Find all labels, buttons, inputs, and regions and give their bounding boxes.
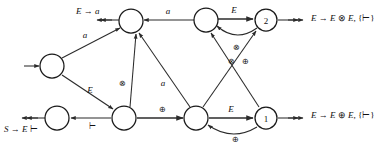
edge-q2-to-topmid-curve <box>217 26 257 35</box>
state-node-top-left[interactable] <box>119 9 143 33</box>
edge-label-a-botright-topleft: a <box>161 78 166 88</box>
annotation-reduce-E-otimes: E → E ⊗ E, {⊢} <box>310 13 375 23</box>
automaton-canvas: 2 1 a a E ⊗ ⊗ a ⊗ ⊕ E ⊢ ⊕ E ⊕ E → a E → … <box>0 0 392 145</box>
edge-botright-to-topleft <box>139 33 190 107</box>
edge-botmid-to-topleft <box>130 34 136 107</box>
edge-label-a-topmid-topleft: a <box>166 6 171 16</box>
edge-label-E-start-botmid: E <box>86 85 93 95</box>
edge-q1-to-botright-curve <box>208 125 257 134</box>
automaton-diagram: 2 1 a a E ⊗ ⊗ a ⊗ ⊕ E ⊢ ⊕ E ⊕ E → a E → … <box>0 0 392 145</box>
annotation-reduce-E-oplus: E → E ⊕ E, {⊢} <box>310 110 375 120</box>
state-node-2-label: 2 <box>264 16 269 26</box>
edge-label-oplus-q1-botright: ⊕ <box>232 135 239 144</box>
state-node-start[interactable] <box>40 54 64 78</box>
state-node-bottom-left[interactable] <box>45 106 69 130</box>
annotation-reduce-E-to-a: E → a <box>75 6 100 16</box>
edge-label-turnstile-botmid-botleft: ⊢ <box>89 122 96 131</box>
edge-start-to-topleft <box>62 28 120 58</box>
edge-label-a-start-topleft: a <box>83 30 88 40</box>
state-node-1-label: 1 <box>264 114 269 124</box>
edge-botright-to-q2 <box>203 31 256 107</box>
edge-label-otimes-q2-topmid: ⊗ <box>233 43 240 52</box>
state-node-top-mid[interactable] <box>194 8 218 32</box>
state-node-bottom-mid[interactable] <box>112 106 136 130</box>
edge-label-E-topmid-q2: E <box>230 5 237 15</box>
edge-label-group: a a E ⊗ ⊗ a ⊗ ⊕ E ⊢ ⊕ E ⊕ <box>83 5 249 144</box>
edge-label-oplus-botright-q2: ⊕ <box>242 57 249 66</box>
edge-label-E-botright-q1: E <box>227 104 234 114</box>
edge-label-oplus-botmid-botright: ⊕ <box>159 105 166 114</box>
annotation-reduce-S-to-E-turnstile: S → E ⊢ <box>4 124 38 134</box>
edge-label-otimes-q1-topmid: ⊗ <box>228 57 235 66</box>
state-node-bottom-right[interactable] <box>184 106 208 130</box>
edge-label-otimes-botmid-topleft: ⊗ <box>119 79 126 88</box>
